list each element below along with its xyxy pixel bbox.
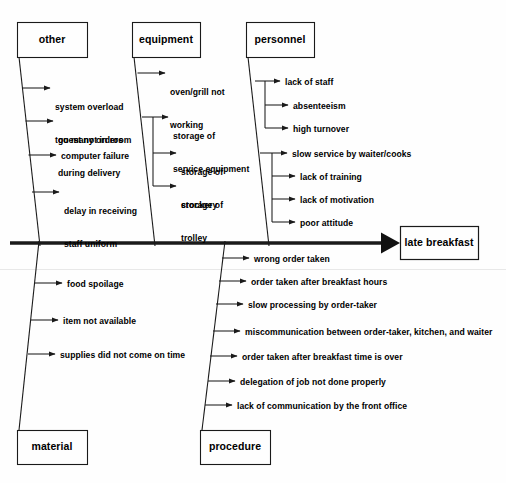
cause-equipment-storage-trolley: storage of trolley [181,179,223,265]
cause-personnel-lack-of-motivation: lack of motivation [300,195,374,205]
cause-line: delay in receiving [64,206,137,217]
category-label-personnel: personnel [246,33,314,45]
cause-arrows-personnel [255,81,295,222]
category-label-other: other [17,33,87,45]
cause-material-supplies-late: supplies did not come on time [60,350,185,360]
cause-procedure-wrong-order: wrong order taken [254,254,330,264]
cause-procedure-order-after-hours: order taken after breakfast hours [251,277,387,287]
cause-line: trolley [181,233,223,244]
cause-procedure-lack-of-communication: lack of communication by the front offic… [237,401,407,411]
cause-procedure-delegation: delegation of job not done properly [240,377,386,387]
cause-personnel-absenteeism: absenteeism [293,101,346,111]
category-label-procedure: procedure [200,440,270,452]
rib-other [19,57,40,246]
cause-personnel-lack-of-staff: lack of staff [285,77,333,87]
cause-line: storage of [181,167,223,178]
cause-line: during delivery [58,168,131,179]
rib-personnel [248,57,269,246]
cause-personnel-slow-service: slow service by waiter/cooks [292,149,411,159]
cause-material-item-not-available: item not available [63,316,136,326]
cause-other-delay-staff-uniform: delay in receiving staff uniform [64,185,137,271]
cause-line: storage of [181,200,223,211]
spine-arrowhead [381,233,400,254]
head-label-late-breakfast: late breakfast [400,236,478,248]
cause-other-computer-failure: computer failure [61,151,129,161]
cause-material-food-spoilage: food spoilage [67,279,124,289]
cause-personnel-poor-attitude: poor attitude [300,218,353,228]
cause-line: guest not in room [58,135,131,146]
cause-line: staff uniform [64,239,137,250]
cause-personnel-high-turnover: high turnover [293,124,349,134]
fishbone-diagram: other equipment personnel material proce… [0,0,506,483]
cause-line: storage of [173,131,249,142]
cause-procedure-miscommunication: miscommunication between order-taker, ki… [245,327,492,337]
cause-personnel-lack-of-training: lack of training [300,172,362,182]
category-label-material: material [17,440,87,452]
cause-line: system overload [55,102,124,113]
rib-equipment [134,57,155,246]
cause-line: oven/grill not [170,87,225,98]
cause-procedure-order-after-time-over: order taken after breakfast time is over [242,352,403,362]
category-label-equipment: equipment [132,33,200,45]
cause-procedure-slow-processing: slow processing by order-taker [248,300,377,310]
